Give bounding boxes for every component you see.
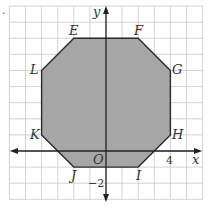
x-axis-arrow-left-icon: [10, 148, 18, 154]
y-axis-arrow-up-icon: [103, 6, 109, 14]
vertex-label-i: I: [135, 168, 142, 183]
coordinate-grid-diagram: . y x O 4 −2 E F G H I J K L: [0, 0, 208, 209]
vertex-label-g: G: [172, 62, 182, 77]
vertex-label-h: H: [171, 127, 184, 142]
x-axis-label: x: [192, 152, 200, 167]
origin-label: O: [93, 152, 104, 167]
y-axis-label: y: [92, 4, 101, 19]
vertex-label-l: L: [29, 62, 39, 77]
vertex-label-f: F: [133, 23, 144, 38]
vertex-label-k: K: [29, 127, 41, 142]
vertex-label-e: E: [68, 23, 79, 38]
x-tick-label-4: 4: [166, 154, 173, 167]
y-tick-label-neg2: −2: [88, 177, 104, 190]
y-axis-arrow-down-icon: [103, 194, 109, 202]
corner-mark: .: [2, 5, 5, 16]
vertex-label-j: J: [68, 168, 77, 183]
